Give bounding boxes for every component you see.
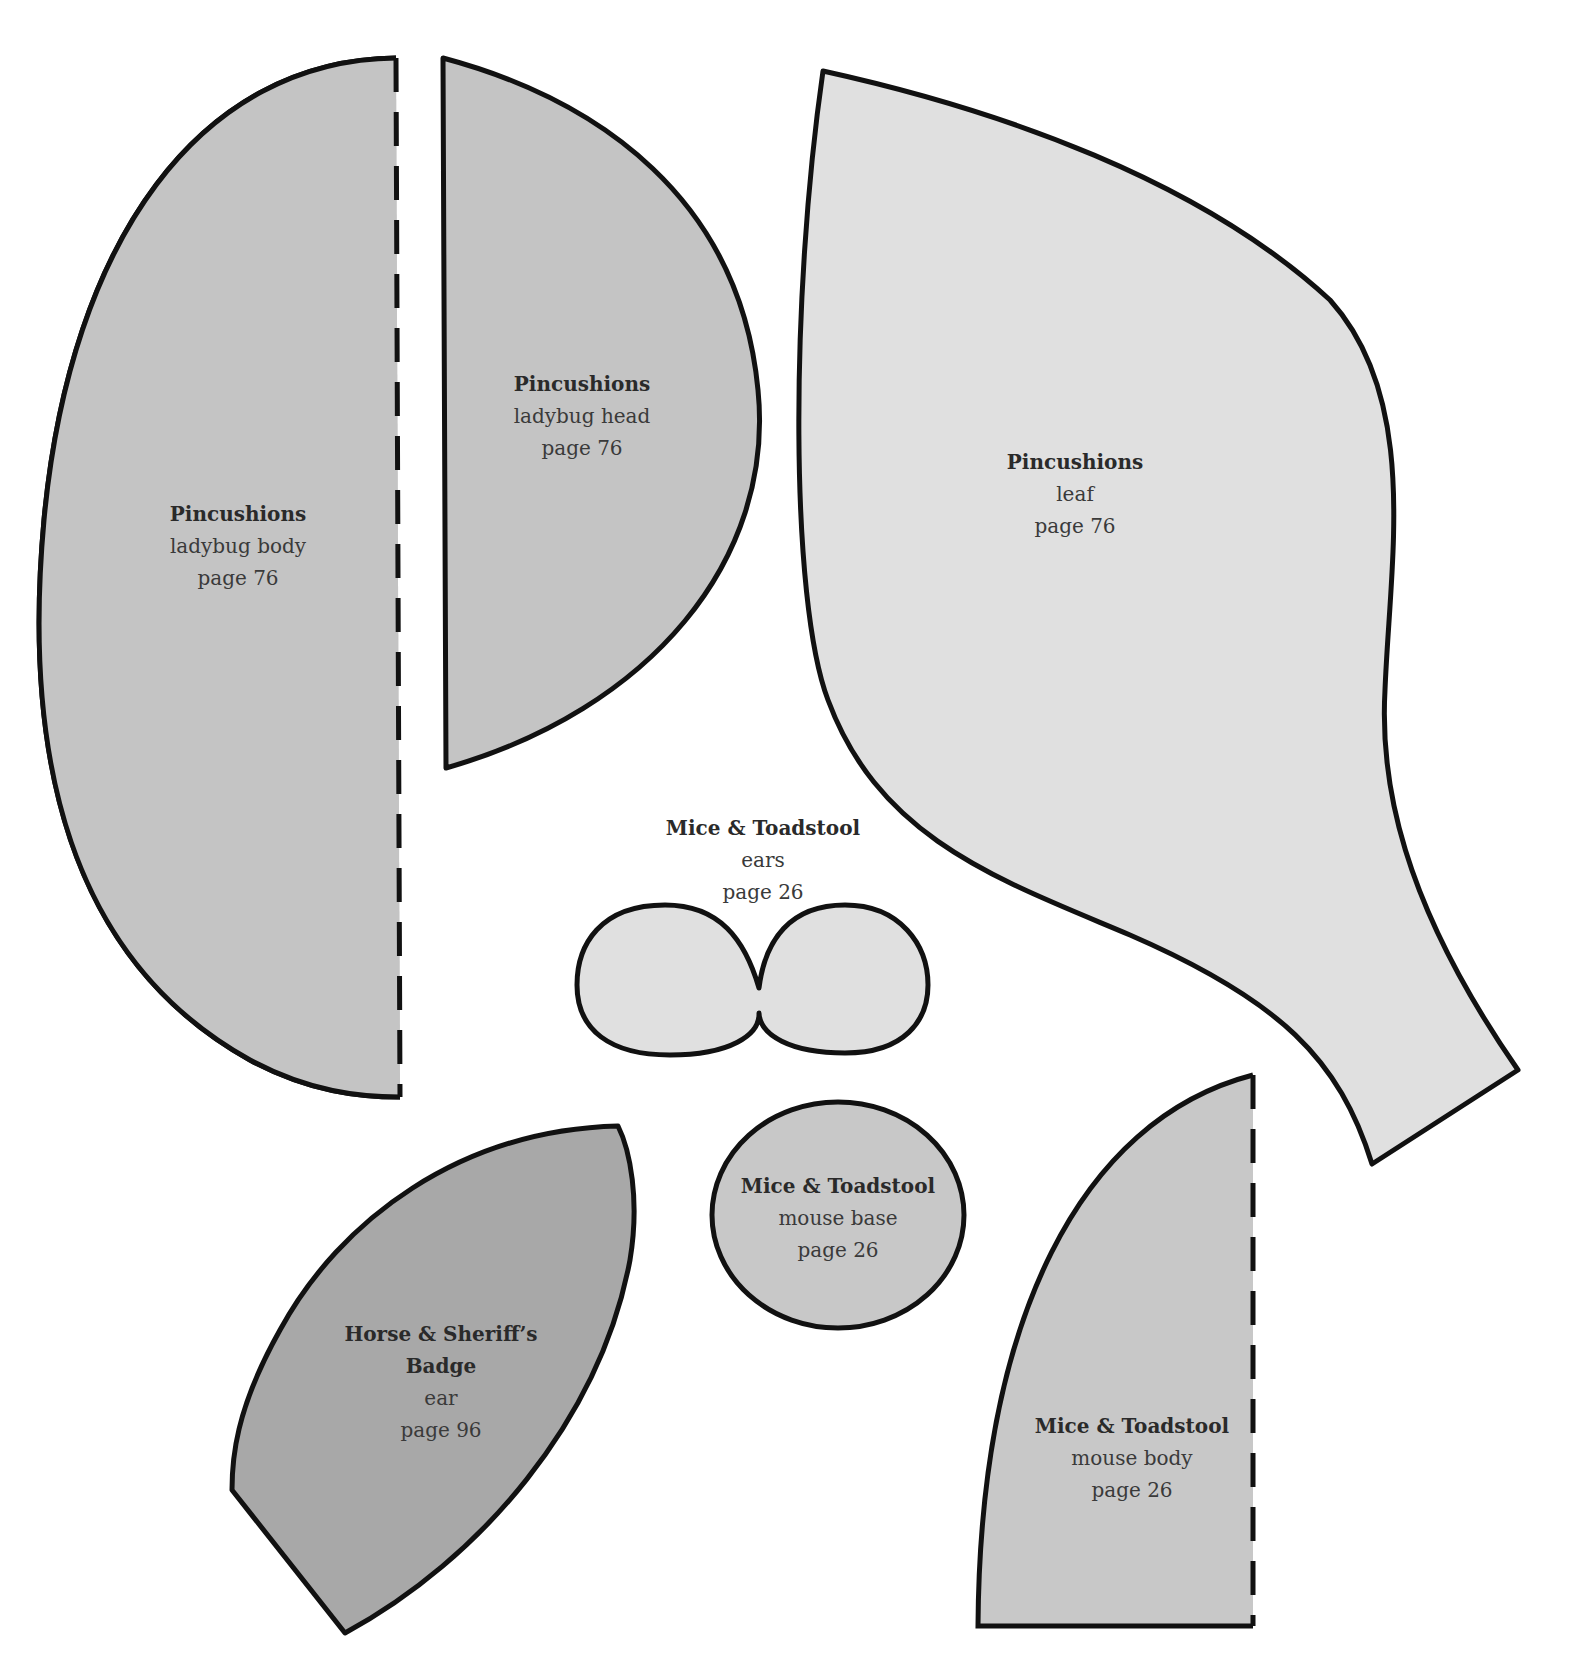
horse-ear-project-line2: Badge — [344, 1350, 537, 1382]
mouse-base-part: mouse base — [741, 1202, 935, 1234]
mouse-body-project: Mice & Toadstool — [1035, 1410, 1229, 1442]
mouse-ears-piece — [577, 905, 928, 1055]
horse-ear-label: Horse & Sheriff’s Badge ear page 96 — [344, 1318, 537, 1446]
horse-ear-page: page 96 — [344, 1414, 537, 1446]
ladybug-body-label: Pincushions ladybug body page 76 — [170, 498, 306, 594]
mouse-ears-part: ears — [666, 844, 860, 876]
ladybug-head-page: page 76 — [514, 432, 651, 464]
ladybug-body-page: page 76 — [170, 562, 306, 594]
mouse-body-piece — [978, 1075, 1253, 1626]
ladybug-body-project: Pincushions — [170, 498, 306, 530]
mouse-base-page: page 26 — [741, 1234, 935, 1266]
mouse-base-label: Mice & Toadstool mouse base page 26 — [741, 1170, 935, 1266]
mouse-ears-project: Mice & Toadstool — [666, 812, 860, 844]
ladybug-body-part: ladybug body — [170, 530, 306, 562]
mouse-ears-outline — [577, 905, 928, 1055]
leaf-page: page 76 — [1007, 510, 1143, 542]
leaf-label: Pincushions leaf page 76 — [1007, 446, 1143, 542]
leaf-part: leaf — [1007, 478, 1143, 510]
mouse-body-part: mouse body — [1035, 1442, 1229, 1474]
horse-ear-project-line1: Horse & Sheriff’s — [344, 1318, 537, 1350]
horse-ear-part: ear — [344, 1382, 537, 1414]
mouse-ears-label: Mice & Toadstool ears page 26 — [666, 812, 860, 908]
ladybug-head-project: Pincushions — [514, 368, 651, 400]
mouse-body-page: page 26 — [1035, 1474, 1229, 1506]
ladybug-head-label: Pincushions ladybug head page 76 — [514, 368, 651, 464]
ladybug-head-part: ladybug head — [514, 400, 651, 432]
mouse-body-label: Mice & Toadstool mouse body page 26 — [1035, 1410, 1229, 1506]
leaf-project: Pincushions — [1007, 446, 1143, 478]
mouse-ears-page: page 26 — [666, 876, 860, 908]
mouse-base-project: Mice & Toadstool — [741, 1170, 935, 1202]
